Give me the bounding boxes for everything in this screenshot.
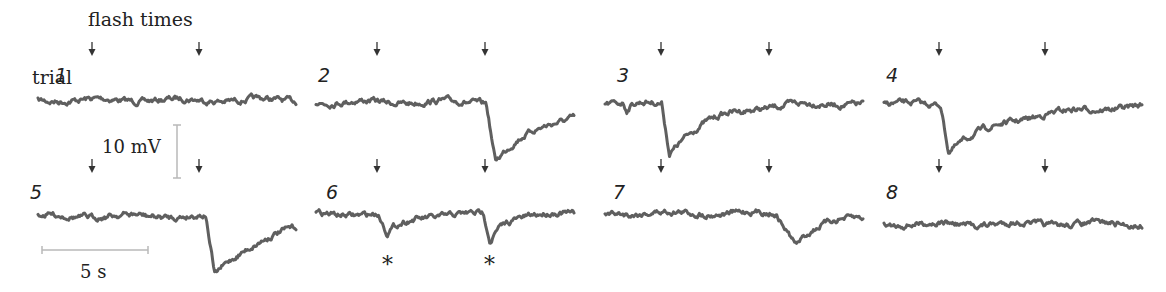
trial-number: 7 xyxy=(613,181,625,203)
trial-panel-5: 5 xyxy=(30,159,296,272)
trial-panel-2: 2 xyxy=(316,42,574,160)
voltage-trace xyxy=(884,99,1142,154)
voltage-trace xyxy=(38,94,296,106)
response-marker-asterisk: * xyxy=(382,252,393,277)
flash-arrow-icon xyxy=(374,42,381,56)
trial-number: 3 xyxy=(617,64,629,86)
trial-panel-4: 4 xyxy=(884,42,1142,153)
time-scale-bar: 5 s xyxy=(42,246,148,282)
trial-panel-3: 3 xyxy=(605,42,863,157)
trial-number: 6 xyxy=(326,181,338,203)
flash-arrow-icon xyxy=(89,42,96,56)
voltage-trace xyxy=(605,210,863,244)
voltage-trace xyxy=(605,100,863,156)
trial-panels: 123456**78 xyxy=(30,42,1142,277)
trial-panel-7: 7 xyxy=(605,159,863,243)
trial-number: 4 xyxy=(886,64,898,86)
flash-times-label: flash times xyxy=(88,8,193,30)
flash-arrow-icon xyxy=(766,159,773,173)
trial-panel-1: 1 xyxy=(38,42,296,106)
flash-arrow-icon xyxy=(196,159,203,173)
voltage-trace xyxy=(316,210,574,244)
voltage-scale-bar: 10 mV xyxy=(102,125,181,178)
flash-arrow-icon xyxy=(374,159,381,173)
voltage-trace xyxy=(884,219,1142,230)
trial-panel-6: 6** xyxy=(316,159,574,277)
flash-arrow-icon xyxy=(196,42,203,56)
figure: flash times trial 123456**78 10 mV 5 s xyxy=(0,0,1166,292)
time-scale-label: 5 s xyxy=(80,261,106,282)
trial-number: 2 xyxy=(318,64,330,86)
flash-arrow-icon xyxy=(482,159,489,173)
response-marker-asterisk: * xyxy=(484,252,495,277)
flash-arrow-icon xyxy=(936,159,943,173)
voltage-trace xyxy=(316,96,574,161)
flash-arrow-icon xyxy=(89,159,96,173)
voltage-scale-label: 10 mV xyxy=(102,136,162,157)
trial-number: 1 xyxy=(55,64,67,86)
flash-arrow-icon xyxy=(1042,42,1049,56)
flash-arrow-icon xyxy=(482,42,489,56)
trial-number: 5 xyxy=(30,181,42,203)
voltage-trace xyxy=(38,212,296,271)
flash-arrow-icon xyxy=(936,42,943,56)
trial-number: 8 xyxy=(886,181,898,203)
flash-arrow-icon xyxy=(658,159,665,173)
trial-panel-8: 8 xyxy=(884,159,1142,229)
flash-arrow-icon xyxy=(766,42,773,56)
flash-arrow-icon xyxy=(658,42,665,56)
flash-arrow-icon xyxy=(1042,159,1049,173)
